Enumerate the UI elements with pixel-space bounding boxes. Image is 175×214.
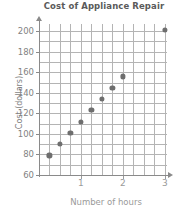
gridline-horizontal [39, 134, 167, 135]
y-tick-label: 180 [0, 47, 34, 57]
y-tick-label: 100 [0, 129, 34, 139]
gridline-vertical [112, 24, 113, 175]
scatter-chart: Cost of Appliance Repair Cost (dollars) … [0, 0, 175, 214]
x-tick-label: 2 [113, 178, 133, 188]
gridline-vertical [165, 24, 166, 175]
gridline-horizontal [39, 41, 167, 42]
x-axis-label: Number of hours [37, 197, 175, 207]
data-point [110, 85, 115, 90]
gridline-horizontal [39, 62, 167, 63]
gridline-vertical [133, 24, 134, 175]
gridline-vertical [91, 24, 92, 175]
y-tick-mark [36, 93, 39, 94]
y-tick-mark [36, 154, 39, 155]
gridline-horizontal [39, 165, 167, 166]
x-axis-line [36, 175, 171, 176]
y-tick-label: 60 [0, 170, 34, 180]
data-point [120, 74, 125, 79]
x-tick-mark [165, 176, 166, 179]
y-tick-mark [36, 52, 39, 53]
gridline-vertical [70, 24, 71, 175]
y-tick-mark [36, 31, 39, 32]
gridline-horizontal [39, 124, 167, 125]
data-point [47, 153, 52, 158]
gridline-vertical [81, 24, 82, 175]
y-tick-label: 160 [0, 67, 34, 77]
data-point [57, 142, 62, 147]
y-tick-label: 140 [0, 88, 34, 98]
x-tick-label: 1 [71, 178, 91, 188]
gridline-horizontal [39, 72, 167, 73]
y-tick-mark [36, 113, 39, 114]
y-tick-label: 80 [0, 149, 34, 159]
gridline-vertical [123, 24, 124, 175]
gridline-horizontal [39, 103, 167, 104]
gridline-horizontal [39, 93, 167, 94]
y-tick-mark [36, 175, 39, 176]
gridline-vertical [154, 24, 155, 175]
data-point [89, 108, 94, 113]
y-tick-label: 200 [0, 26, 34, 36]
y-axis-line [39, 20, 40, 177]
gridline-horizontal [39, 83, 167, 84]
x-tick-mark [123, 176, 124, 179]
gridline-vertical [144, 24, 145, 175]
gridline-horizontal [39, 31, 167, 32]
gridline-horizontal [39, 113, 167, 114]
gridline-horizontal [39, 154, 167, 155]
x-axis-arrow-icon [168, 172, 173, 178]
y-tick-mark [36, 134, 39, 135]
y-tick-mark [36, 72, 39, 73]
gridline-vertical [60, 24, 61, 175]
x-tick-label: 3 [155, 178, 175, 188]
gridline-horizontal [39, 52, 167, 53]
plot-area [39, 24, 167, 175]
data-point [99, 96, 104, 101]
chart-title: Cost of Appliance Repair [33, 1, 175, 11]
y-tick-label: 120 [0, 108, 34, 118]
x-tick-mark [81, 176, 82, 179]
y-axis-arrow-icon [36, 16, 42, 21]
